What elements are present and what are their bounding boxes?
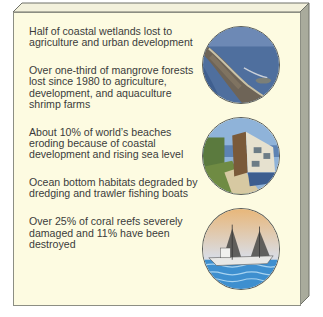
trawler-boat-image xyxy=(202,208,280,290)
beach-erosion-image xyxy=(202,117,280,195)
fact-mangroves: Over one-third of mangrove forests lost … xyxy=(29,65,199,110)
fact-beaches: About 10% of world’s beaches eroding bec… xyxy=(29,127,199,161)
fact-wetlands: Half of coastal wetlands lost to agricul… xyxy=(29,26,199,49)
facts-list: Half of coastal wetlands lost to agricul… xyxy=(29,26,199,267)
fact-ocean-bottom: Ocean bottom habitats degraded by dredgi… xyxy=(29,177,199,200)
coastline-aerial-image xyxy=(202,26,280,104)
fact-coral-reefs: Over 25% of coral reefs severely damaged… xyxy=(29,216,199,250)
